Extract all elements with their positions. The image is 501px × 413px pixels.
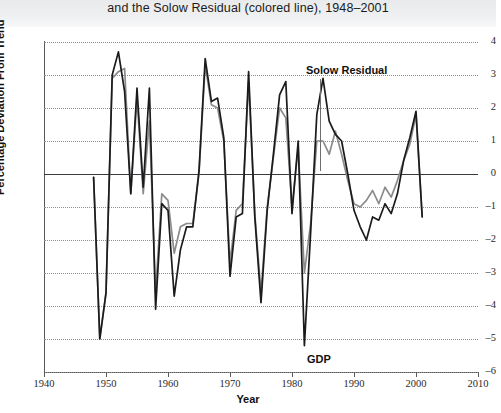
gdp-line [94, 52, 423, 346]
series-plot [0, 27, 496, 413]
chart-title: and the Solow Residual (colored line), 1… [0, 1, 496, 15]
solow-residual-leader-line [320, 79, 321, 171]
chart-figure: 43210–1–2–3–4–5–6 1940195019601970198019… [0, 27, 496, 413]
solow-residual-label: Solow Residual [306, 64, 387, 76]
gdp-label: GDP [307, 353, 331, 365]
solow-residual-line [94, 65, 423, 339]
